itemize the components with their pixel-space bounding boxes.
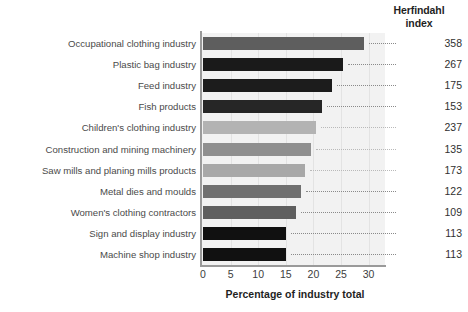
header-line-1: Herfindahl [376,4,462,17]
x-axis-line [200,265,386,267]
chart-row: Machine shop industry113 [0,244,468,265]
leader-line [337,85,396,86]
x-tick-label: 5 [219,268,243,280]
leader-line [316,149,396,150]
herfindahl-bar-chart: Herfindahl index Occupational clothing i… [0,0,468,312]
header-line-2: index [376,17,462,30]
herfindahl-value: 113 [428,244,462,265]
herfindahl-value: 175 [428,75,462,96]
chart-row: Construction and mining machinery135 [0,139,468,160]
x-tick-label: 20 [301,268,325,280]
chart-row: Feed industry175 [0,75,468,96]
bar [203,58,343,71]
bar [203,143,311,156]
herfindahl-value: 358 [428,33,462,54]
herfindahl-value: 267 [428,54,462,75]
bar [203,185,301,198]
bar [203,79,332,92]
chart-row: Saw mills and planing mills products173 [0,160,468,181]
x-axis-ticks: 051015202530 [0,268,468,282]
category-label: Saw mills and planing mills products [0,160,196,181]
herfindahl-index-header: Herfindahl index [376,4,462,30]
x-tick-label: 0 [191,268,215,280]
leader-line [306,191,396,192]
category-label: Occupational clothing industry [0,33,196,54]
bar [203,164,305,177]
leader-line [348,64,396,65]
x-axis-label: Percentage of industry total [160,288,430,300]
category-label: Sign and display industry [0,223,196,244]
x-tick-label: 10 [246,268,270,280]
bar [203,100,322,113]
leader-line [369,43,396,44]
herfindahl-value: 153 [428,96,462,117]
category-label: Plastic bag industry [0,54,196,75]
leader-line [291,254,396,255]
x-tick-label: 30 [357,268,381,280]
chart-row: Occupational clothing industry358 [0,33,468,54]
leader-line [327,106,396,107]
category-label: Women's clothing contractors [0,202,196,223]
chart-row: Women's clothing contractors109 [0,202,468,223]
category-label: Construction and mining machinery [0,139,196,160]
category-label: Feed industry [0,75,196,96]
x-tick-label: 15 [274,268,298,280]
bar [203,227,286,240]
bar [203,121,316,134]
herfindahl-value: 237 [428,117,462,138]
category-label: Fish products [0,96,196,117]
category-label: Children's clothing industry [0,117,196,138]
category-label: Machine shop industry [0,244,196,265]
herfindahl-value: 173 [428,160,462,181]
herfindahl-value: 135 [428,139,462,160]
leader-line [301,212,396,213]
herfindahl-value: 109 [428,202,462,223]
bar [203,206,296,219]
bar [203,248,286,261]
leader-line [291,233,396,234]
herfindahl-value: 113 [428,223,462,244]
chart-row: Children's clothing industry237 [0,117,468,138]
herfindahl-value: 122 [428,181,462,202]
chart-row: Sign and display industry113 [0,223,468,244]
chart-row: Plastic bag industry267 [0,54,468,75]
chart-row: Fish products153 [0,96,468,117]
chart-row: Metal dies and moulds122 [0,181,468,202]
bar [203,37,364,50]
category-label: Metal dies and moulds [0,181,196,202]
x-tick-label: 25 [329,268,353,280]
leader-line [321,127,396,128]
leader-line [310,170,396,171]
